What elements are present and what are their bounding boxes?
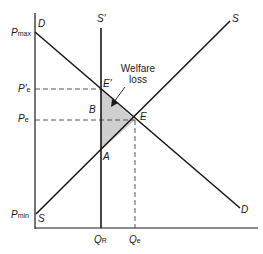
supply-curve [36,21,230,214]
qe-label: Qe [129,235,141,245]
point-e-label: E [140,112,147,122]
pe-prime-label: P′e [18,84,30,94]
annotation-line-2: loss [112,74,164,85]
pmin-label: Pmin [11,210,29,220]
restricted-supply-label: S′ [97,14,106,24]
welfare-loss-annotation: Welfare loss [112,63,164,85]
annotation-line-1: Welfare [112,63,164,74]
point-a-label: A [103,152,110,162]
point-e-prime-label: E′ [103,79,112,89]
annotation-arrow [114,87,125,102]
supply-label-bottom: S [38,214,45,224]
pmax-label: Pmax [11,28,31,38]
point-b-label: B [89,105,96,115]
demand-label-top: D [38,19,45,29]
welfare-loss-diagram: D S′ S D S E′ E A B Pmax P′e Pe Pmin QR … [0,0,263,254]
demand-label-bottom: D [241,205,248,215]
supply-label-top: S [232,14,239,24]
pe-label: Pe [18,114,29,124]
demand-curve [35,32,240,208]
qr-label: QR [94,235,107,245]
